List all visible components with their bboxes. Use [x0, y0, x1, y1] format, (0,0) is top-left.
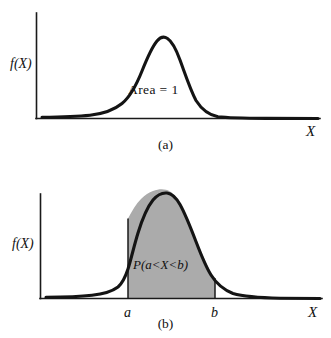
panel-b-y-axis-label: f(X)	[12, 236, 34, 252]
panel-b-chart: f(X) X P(a<X<b) a b	[0, 170, 331, 338]
panel-a-caption: (a)	[0, 137, 331, 153]
panel-b-probability-annotation: P(a<X<b)	[132, 257, 188, 272]
panel-a-y-axis-label: f(X)	[10, 56, 32, 72]
panel-a-density-curve	[42, 37, 318, 118]
panel-b-shaded-region	[128, 189, 215, 298]
panel-a-area-annotation: Area = 1	[128, 82, 179, 97]
probability-density-figure: f(X) X Area = 1 (a) f(X) X P(a<X<b) a b …	[0, 0, 331, 338]
panel-b-caption: (b)	[0, 316, 331, 332]
